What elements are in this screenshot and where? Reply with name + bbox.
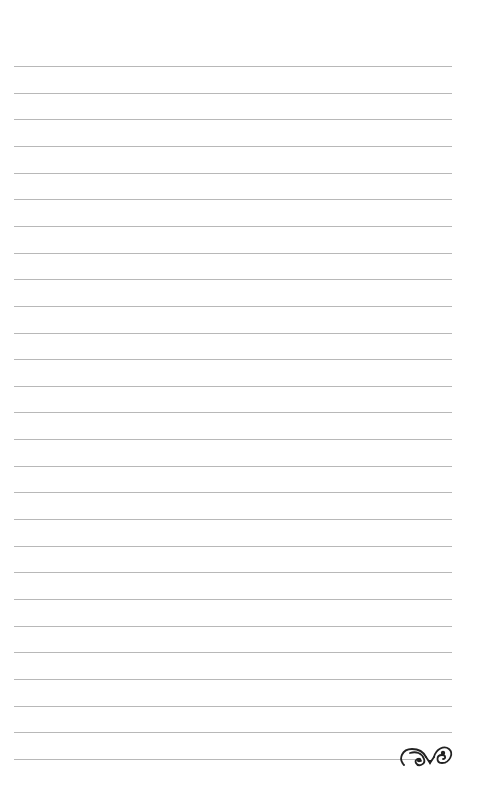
ruled-line — [14, 306, 452, 307]
ruled-line — [14, 439, 452, 440]
ruled-line — [14, 599, 452, 600]
ruled-line — [14, 333, 452, 334]
ruled-line — [14, 226, 452, 227]
ruled-line — [14, 412, 452, 413]
ruled-line — [14, 732, 452, 733]
ruled-line — [14, 279, 452, 280]
ruled-line — [14, 199, 452, 200]
ruled-line — [14, 652, 452, 653]
ruled-line — [14, 706, 452, 707]
ruled-line — [14, 359, 452, 360]
ruled-line — [14, 572, 452, 573]
ruled-line — [14, 626, 452, 627]
ruled-line — [14, 146, 452, 147]
ruled-line — [14, 66, 452, 67]
ruled-line — [14, 546, 452, 547]
lined-page — [0, 0, 477, 790]
ruled-line — [14, 173, 452, 174]
ruled-line — [14, 679, 452, 680]
ruled-line — [14, 519, 452, 520]
ruled-line — [14, 492, 452, 493]
ruled-line — [14, 119, 452, 120]
ruled-line — [14, 93, 452, 94]
ruled-line — [14, 386, 452, 387]
flourish-scroll-icon — [396, 743, 454, 769]
ruled-line — [14, 759, 415, 760]
ruled-line — [14, 253, 452, 254]
ruled-line — [14, 466, 452, 467]
